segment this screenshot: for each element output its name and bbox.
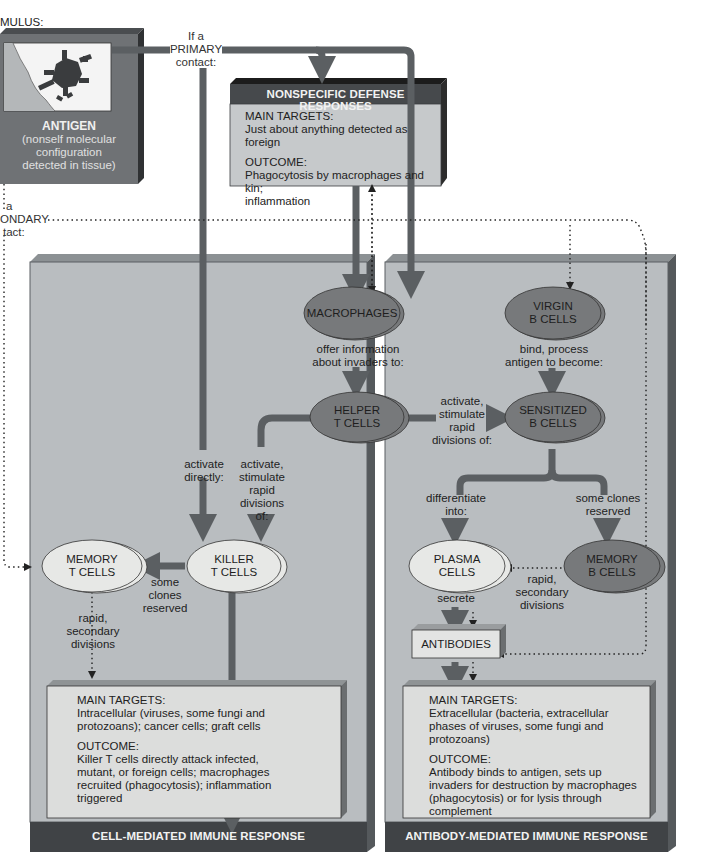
macrophages-node: MACROPHAGES [304,300,400,326]
helper-t-line-2: T CELLS [334,417,380,430]
plasma-cells-node: PLASMA CELLS [409,553,505,579]
rst-line-1: rapid, [62,612,124,625]
activate-stimulate-t-label: activate, stimulate rapid divisions of: [232,458,292,523]
activate-directly-label: activate directly: [176,458,232,484]
am-targets-line-3: protozoans) [429,733,649,746]
primary-contact-line-2: PRIMARY [168,43,224,56]
nonspecific-outcome-line-2: inflammation [245,195,435,208]
memory-t-line-2: T CELLS [69,566,115,579]
primary-contact-line-3: contact: [168,56,224,69]
am-outcome-line-4: complement [429,805,649,818]
ast-line-1: activate, [232,458,292,471]
memory-t-cells-node: MEMORY T CELLS [42,553,142,579]
sensitized-b-cells-node: SENSITIZED B CELLS [505,404,601,430]
memory-t-line-1: MEMORY [66,553,118,566]
am-outcome-line-3: (phagocytosis) or for lysis through [429,792,649,805]
plasma-line-2: CELLS [439,566,475,579]
ast-line-3: rapid [232,484,292,497]
plasma-line-1: PLASMA [434,553,481,566]
am-outcome-label: OUTCOME: [429,753,649,766]
nonspecific-targets-label: MAIN TARGETS: [245,110,435,123]
virgin-b-line-2: B CELLS [529,313,576,326]
helper-t-line-1: HELPER [334,404,380,417]
cm-outcome-line-4: triggered [77,792,339,805]
rst-line-3: divisions [62,638,124,651]
helper-t-cells-node: HELPER T CELLS [310,404,404,430]
stimulus-label: MULUS: [0,16,43,29]
asb-line-4: divisions of: [430,434,494,447]
ast-line-2: stimulate [232,471,292,484]
activate-stimulate-b-label: activate, stimulate rapid divisions of: [430,395,494,447]
cell-mediated-outcome: MAIN TARGETS: Intracellular (viruses, so… [77,694,339,805]
some-clones-t-label: some clones reserved [140,576,190,615]
diff-line-2: into: [418,505,494,518]
rsb-line-1: rapid, [512,573,572,586]
sensitized-b-line-1: SENSITIZED [519,404,587,417]
rapid-secondary-t-label: rapid, secondary divisions [62,612,124,651]
primary-contact-label: If a PRIMARY contact: [168,30,224,69]
rst-line-2: secondary [62,625,124,638]
cm-targets-label: MAIN TARGETS: [77,694,339,707]
differentiate-label: differentiate into: [418,492,494,518]
diff-line-1: differentiate [418,492,494,505]
cm-outcome-line-2: mutant, or foreign cells; macrophages [77,766,339,779]
ad-line-1: activate [176,458,232,471]
cell-mediated-title: CELL-MEDIATED IMMUNE RESPONSE [30,830,367,842]
offer-info-line-2: about invaders to: [306,356,410,369]
am-targets-line-1: Extracellular (bacteria, extracellular [429,707,649,720]
memory-b-line-2: B CELLS [588,566,635,579]
cm-targets-line-1: Intracellular (viruses, some fungi and [77,707,339,720]
cm-outcome-label: OUTCOME: [77,740,339,753]
memory-b-line-1: MEMORY [586,553,638,566]
cm-targets-line-2: protozoans); cancer cells; graft cells [77,720,339,733]
nonspecific-outcome-label: OUTCOME: [245,156,435,169]
antibody-mediated-title: ANTIBODY-MEDIATED IMMUNE RESPONSE [385,830,668,842]
virgin-b-cells-node: VIRGIN B CELLS [505,300,601,326]
asb-line-3: rapid [430,421,494,434]
antigen-desc-1: (nonself molecular [0,133,138,146]
asb-line-1: activate, [430,395,494,408]
antigen-desc-2: configuration [0,146,138,159]
sct-line-2: clones [140,589,190,602]
ad-line-2: directly: [176,471,232,484]
nonspecific-targets-text: Just about anything detected as foreign [245,123,435,149]
sct-line-3: reserved [140,602,190,615]
cm-outcome-line-3: recruited (phagocytosis); inflammation [77,779,339,792]
some-clones-b-label: some clones reserved [572,492,644,518]
ast-line-5: of: [232,510,292,523]
virgin-b-line-1: VIRGIN [533,300,573,313]
bind-process-line-2: antigen to become: [502,356,606,369]
antibodies-label: ANTIBODIES [421,638,491,651]
nonspecific-body: MAIN TARGETS: Just about anything detect… [245,110,435,208]
cm-outcome-line-1: Killer T cells directly attack infected, [77,753,339,766]
bind-process-line-1: bind, process [502,343,606,356]
macrophages-label: MACROPHAGES [307,307,398,320]
sensitized-b-line-2: B CELLS [529,417,576,430]
killer-t-line-2: T CELLS [211,566,257,579]
memory-b-cells-node: MEMORY B CELLS [564,553,660,579]
nonspecific-title: NONSPECIFIC DEFENSE RESPONSES [230,88,441,112]
offer-information-label: offer information about invaders to: [306,343,410,369]
nonspecific-outcome-line-1: Phagocytosis by macrophages and kin; [245,169,435,195]
secondary-contact-line-1: a [0,200,49,213]
stimulus-label-text: MULUS: [0,16,43,28]
rsb-line-2: secondary [512,586,572,599]
rsb-line-3: divisions [512,599,572,612]
am-targets-label: MAIN TARGETS: [429,694,649,707]
killer-t-cells-node: KILLER T CELLS [187,553,281,579]
killer-t-line-1: KILLER [214,553,254,566]
scb-line-2: reserved [572,505,644,518]
ast-line-4: divisions [232,497,292,510]
scb-line-1: some clones [572,492,644,505]
asb-line-2: stimulate [430,408,494,421]
antigen-desc-3: detected in tissue) [0,159,138,172]
am-outcome-line-2: invaders for destruction by macrophages [429,779,649,792]
antibodies-node: ANTIBODIES [412,630,500,658]
bind-process-label: bind, process antigen to become: [502,343,606,369]
antigen-label: ANTIGEN (nonself molecular configuration… [0,120,138,172]
primary-contact-line-1: If a [168,30,224,43]
am-targets-line-2: phases of viruses, some fungi and [429,720,649,733]
secrete-label: secrete [428,592,484,605]
secondary-contact-label: a ONDARY tact: [0,200,49,239]
offer-info-line-1: offer information [306,343,410,356]
